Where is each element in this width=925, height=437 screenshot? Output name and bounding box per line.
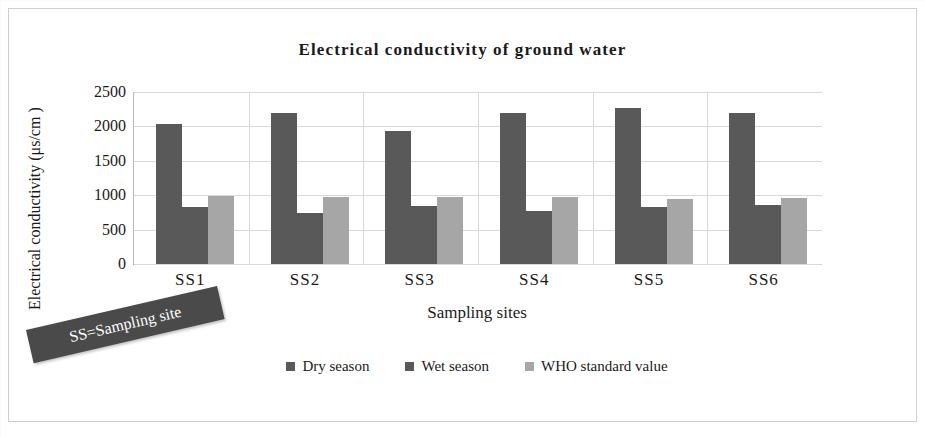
x-tick-label: SS3	[362, 270, 477, 290]
legend-label: Dry season	[302, 358, 369, 375]
legend-item: Wet season	[405, 358, 489, 375]
bar-group	[707, 92, 822, 264]
bar	[552, 197, 578, 264]
y-axis-tick-labels: 05001000150020002500	[60, 92, 126, 264]
x-tick-label: SS6	[706, 270, 821, 290]
x-axis-label: Sampling sites	[133, 303, 821, 323]
chart-title: Electrical conductivity of ground water	[0, 40, 925, 60]
bar	[729, 113, 755, 264]
y-tick-label: 1000	[60, 186, 126, 204]
bar	[385, 131, 411, 264]
bar	[271, 113, 297, 264]
y-tick-label: 0	[60, 255, 126, 273]
bar	[667, 199, 693, 264]
bar	[781, 198, 807, 264]
x-axis-tick-labels: SS1SS2SS3SS4SS5SS6	[133, 270, 821, 296]
chart-figure: Electrical conductivity of ground water …	[0, 0, 925, 437]
y-axis-label: Electrical conductivity (μs/cm )	[26, 107, 44, 310]
bar	[755, 205, 781, 264]
y-tick-label: 500	[60, 221, 126, 239]
x-tick-label: SS4	[477, 270, 592, 290]
gridline	[134, 264, 822, 265]
bar	[156, 124, 182, 264]
bar	[208, 196, 234, 264]
x-tick-label: SS1	[133, 270, 248, 290]
bar	[297, 213, 323, 264]
y-tick-label: 1500	[60, 152, 126, 170]
bar-group	[363, 92, 478, 264]
bar	[437, 197, 463, 264]
plot-area	[133, 92, 822, 265]
bar	[615, 108, 641, 264]
bar	[323, 197, 349, 264]
bar-group	[249, 92, 364, 264]
bar-group	[478, 92, 593, 264]
legend-item: WHO standard value	[525, 358, 668, 375]
bar	[500, 113, 526, 264]
bar-group	[593, 92, 708, 264]
x-tick-label: SS5	[592, 270, 707, 290]
bar	[526, 211, 552, 264]
y-tick-label: 2500	[60, 83, 126, 101]
legend-swatch-icon	[405, 362, 414, 371]
legend-swatch-icon	[286, 362, 295, 371]
legend-label: WHO standard value	[541, 358, 668, 375]
chart-legend: Dry seasonWet seasonWHO standard value	[133, 358, 821, 375]
legend-item: Dry season	[286, 358, 369, 375]
bar	[641, 207, 667, 264]
legend-label: Wet season	[421, 358, 489, 375]
x-tick-label: SS2	[248, 270, 363, 290]
bar-group	[134, 92, 249, 264]
bar	[182, 207, 208, 264]
bar	[411, 206, 437, 264]
legend-swatch-icon	[525, 362, 534, 371]
y-axis-label-container: Electrical conductivity (μs/cm )	[22, 60, 50, 310]
y-tick-label: 2000	[60, 117, 126, 135]
